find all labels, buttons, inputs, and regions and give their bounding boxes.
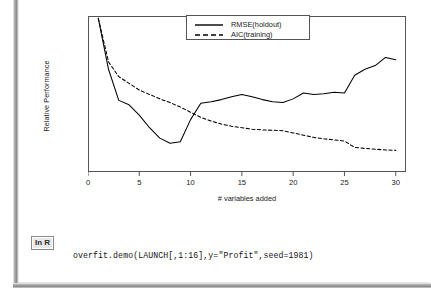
x-tick-label-20: 20 [289, 178, 297, 187]
x-axis-title: # variables added [88, 194, 406, 203]
chart-legend: RMSE(holdout) AIC(training) [186, 15, 310, 40]
x-tick-label-5: 5 [137, 178, 141, 187]
x-tick-label-15: 15 [238, 178, 246, 187]
legend-entry-aic: AIC(training) [187, 30, 309, 40]
in-r-badge: In R [31, 236, 54, 250]
plot-canvas [88, 16, 406, 178]
r-code-line: overfit.demo(LAUNCH[,1:16],y="Profit",se… [73, 251, 314, 260]
overfitting-line-chart: Relative Performance RMSE(holdout) AIC(t… [56, 8, 412, 208]
slide-bottom-border-bar [13, 283, 431, 288]
legend-swatch-dashed-icon [195, 34, 223, 36]
x-tick-label-10: 10 [186, 178, 194, 187]
legend-entry-rmse: RMSE(holdout) [187, 20, 309, 30]
x-tick-label-25: 25 [340, 178, 348, 187]
slide-frame: Relative Performance RMSE(holdout) AIC(t… [0, 0, 431, 304]
x-tick-label-30: 30 [392, 178, 400, 187]
y-axis-title: Relative Performance [42, 26, 56, 166]
legend-label-rmse: RMSE(holdout) [231, 20, 282, 29]
x-tick-label-0: 0 [86, 178, 90, 187]
legend-swatch-solid-icon [195, 24, 223, 26]
x-axis-tick-labels: 051015202530 [88, 178, 406, 190]
slide-left-border-bar [13, 0, 18, 288]
legend-label-aic: AIC(training) [231, 30, 272, 39]
